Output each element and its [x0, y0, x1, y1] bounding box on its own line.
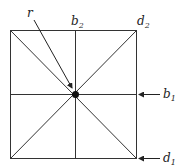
label-b1: b1	[163, 87, 176, 103]
label-d2: d2	[137, 14, 150, 30]
center-point	[72, 91, 79, 98]
label-b2: b2	[71, 14, 84, 30]
square-diagram: r b2 d2 b1 d1	[0, 0, 182, 168]
label-r: r	[27, 6, 34, 20]
label-d1: d1	[163, 151, 176, 167]
